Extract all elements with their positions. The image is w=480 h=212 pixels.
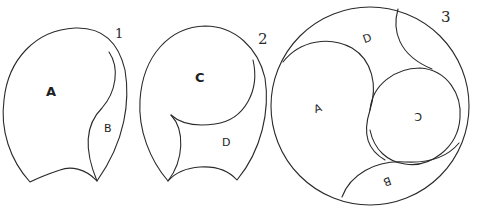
figure-1-number: 1	[115, 26, 123, 41]
figure-2-number: 2	[258, 30, 268, 48]
diagram-canvas: A B 1 C D 2 A D C B 3	[0, 0, 480, 212]
figure-1: A B 1	[3, 26, 127, 182]
figure-2-label-d: D	[222, 136, 230, 149]
figure-1-region-b-boundary	[88, 52, 115, 181]
figure-3-label-b: B	[381, 174, 393, 189]
figure-2-label-c: C	[195, 70, 205, 85]
figure-3-label-a: A	[312, 101, 324, 116]
figure-3-region-d-boundary	[396, 9, 432, 69]
figure-2-region-d-boundary	[171, 60, 255, 125]
figure-3-region-b-boundary	[342, 143, 459, 197]
figure-3-region-a-boundary	[283, 41, 385, 160]
figure-1-label-a: A	[46, 84, 56, 99]
figure-2: C D 2	[140, 26, 268, 181]
figure-1-outline	[3, 28, 127, 182]
figure-2-region-d-inner-arc	[168, 115, 181, 181]
figure-3-label-c: C	[414, 110, 422, 123]
figure-1-label-b: B	[104, 122, 112, 135]
figure-3: A D C B 3	[271, 7, 469, 205]
figure-3-number: 3	[441, 8, 451, 26]
figure-3-label-d: D	[361, 31, 373, 46]
